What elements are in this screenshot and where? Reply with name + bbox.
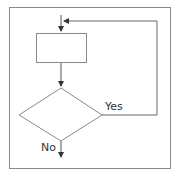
diagram-frame <box>10 8 171 169</box>
no-label: No <box>41 141 56 154</box>
yes-label: Yes <box>104 100 123 113</box>
decision-diamond <box>19 88 102 141</box>
flowchart-canvas: Yes No <box>0 0 178 177</box>
process-box <box>37 34 87 63</box>
